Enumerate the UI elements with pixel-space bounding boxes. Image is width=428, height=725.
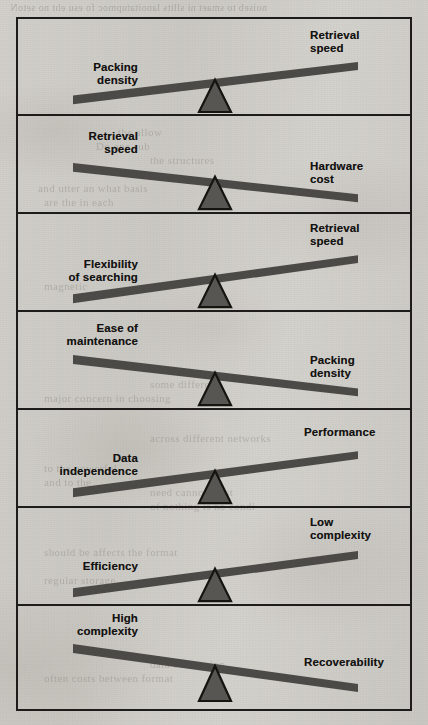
seesaw-label-right-2: Hardware cost [310,160,410,186]
seesaw-label-left-3: Flexibility of searching [20,258,138,284]
seesaw-label-left-5: Data independence [18,452,138,478]
seesaw-label-left-7: High complexity [28,612,138,638]
seesaw-label-right-6: Low complexity [310,516,410,542]
seesaw-panel-4: Ease of maintenance Packing density [18,312,410,410]
seesaw-panel-1: Packing density Retrieval speed [18,19,410,116]
seesaw-label-right-3: Retrieval speed [310,222,410,248]
seesaw-panel-2: Retrieval speed Hardware cost [18,116,410,214]
seesaw-label-left-2: Retrieval speed [28,130,138,156]
seesaw-label-right-4: Packing density [310,354,410,380]
seesaw-panel-5: Data independence Performance [18,410,410,508]
seesaw-panel-3: Flexibility of searching Retrieval speed [18,214,410,312]
ghost-text-top: noiseb to smaet ni sllits lanoitatupmoc … [10,2,267,13]
seesaw-label-left-6: Efficiency [28,560,138,573]
seesaw-label-right-5: Performance [304,426,410,439]
scanned-page-background: noiseb to smaet ni sllits lanoitatupmoc … [0,0,428,725]
seesaw-label-left-1: Packing density [28,61,138,87]
seesaw-panel-6: Efficiency Low complexity [18,508,410,606]
seesaw-label-right-7: Recoverability [304,656,410,669]
seesaw-label-left-4: Ease of maintenance [20,322,138,348]
seesaw-label-right-1: Retrieval speed [310,29,410,55]
seesaw-panel-7: High complexity Recoverability [18,606,410,706]
figure-frame: Packing density Retrieval speed Retrieva… [16,17,412,711]
